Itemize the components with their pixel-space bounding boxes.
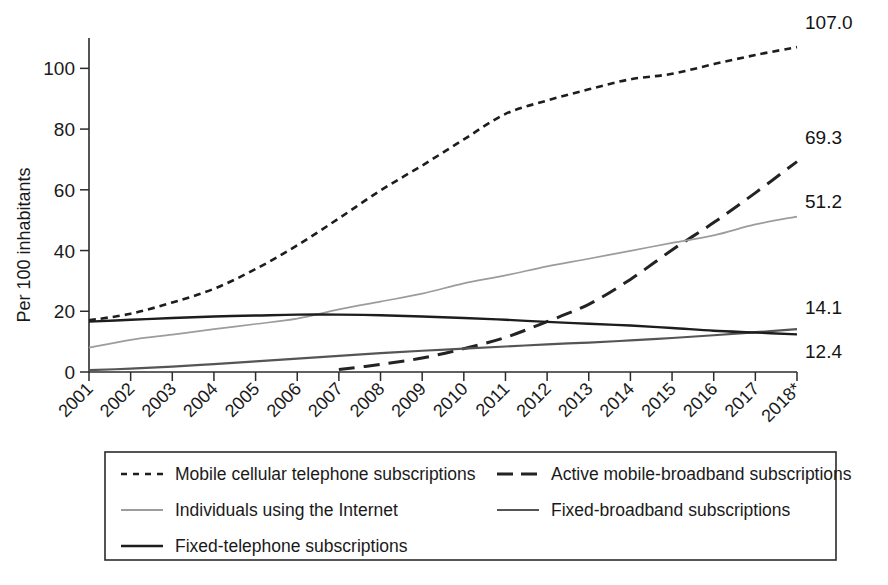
legend: Mobile cellular telephone subscriptionsA…	[105, 452, 852, 560]
x-tick-label: 2015	[637, 379, 679, 421]
y-tick-label: 0	[64, 362, 75, 383]
legend-label: Fixed-telephone subscriptions	[175, 536, 408, 556]
x-tick-label: 2002	[96, 379, 138, 421]
legend-label: Fixed-broadband subscriptions	[551, 500, 791, 520]
x-tick-label: 2018*	[757, 379, 804, 426]
end-label-51-2: 51.2	[805, 191, 842, 212]
y-tick-label: 60	[54, 180, 75, 201]
y-tick-label: 100	[43, 58, 75, 79]
end-label-69-3: 69.3	[805, 127, 842, 148]
y-axis: 020406080100	[43, 38, 89, 383]
end-label-12-4: 12.4	[805, 341, 842, 362]
series-lines	[89, 47, 797, 370]
legend-item[interactable]: Mobile cellular telephone subscriptions	[121, 464, 476, 484]
line-chart: 020406080100 200120022003200420052006200…	[0, 0, 888, 585]
end-label-107-0: 107.0	[805, 12, 853, 33]
x-tick-label: 2008	[346, 379, 388, 421]
legend-item[interactable]: Active mobile-broadband subscriptions	[497, 464, 852, 484]
y-tick-label: 80	[54, 119, 75, 140]
x-tick-label: 2017	[721, 379, 763, 421]
series-line-3	[89, 329, 797, 370]
x-tick-label: 2011	[472, 379, 514, 421]
legend-label: Mobile cellular telephone subscriptions	[175, 464, 476, 484]
end-value-labels: 107.069.351.214.112.4	[805, 12, 853, 362]
x-tick-label: 2007	[304, 379, 346, 421]
x-tick-label: 2003	[138, 379, 180, 421]
x-tick-label: 2005	[221, 379, 263, 421]
x-tick-label: 2016	[679, 379, 721, 421]
y-tick-label: 40	[54, 241, 75, 262]
series-line-0	[89, 47, 797, 320]
x-tick-label: 2014	[596, 379, 638, 421]
x-tick-label: 2013	[554, 379, 596, 421]
x-tick-label: 2009	[388, 379, 430, 421]
end-label-14-1: 14.1	[805, 297, 842, 318]
x-tick-label: 2004	[179, 379, 221, 421]
x-axis: 2001200220032004200520062007200820092010…	[54, 372, 804, 426]
series-line-1	[339, 162, 797, 370]
x-tick-label: 2006	[263, 379, 305, 421]
x-tick-label: 2001	[54, 379, 96, 421]
y-tick-label: 20	[54, 301, 75, 322]
x-tick-label: 2012	[512, 379, 554, 421]
y-axis-title: Per 100 inhabitants	[14, 167, 34, 322]
chart-container: 020406080100 200120022003200420052006200…	[0, 0, 888, 585]
legend-label: Individuals using the Internet	[175, 500, 398, 520]
x-tick-label: 2010	[429, 379, 471, 421]
legend-label: Active mobile-broadband subscriptions	[551, 464, 852, 484]
